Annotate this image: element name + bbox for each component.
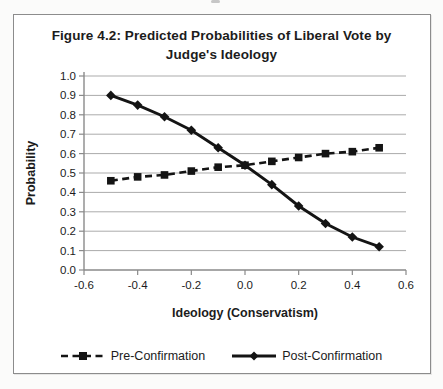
y-tick-label-0.4: 0.4 [60, 186, 77, 198]
pre-confirmation-marker-0.1 [268, 158, 276, 166]
legend-item-pre-confirmation: Pre-Confirmation [60, 349, 205, 363]
chart-legend: Pre-Confirmation Post-Confirmation [13, 347, 429, 365]
y-tick-label-0.6: 0.6 [60, 148, 76, 160]
x-axis-title: Ideology (Conservatism) [84, 306, 406, 320]
pre-confirmation-line-sample [60, 349, 106, 363]
pre-confirmation-marker--0.2 [188, 167, 196, 175]
legend-label-post-confirmation: Post-Confirmation [282, 349, 382, 363]
legend-label-pre-confirmation: Pre-Confirmation [111, 349, 205, 363]
post-confirmation-marker--0.5 [106, 91, 116, 101]
post-confirmation-line-sample [231, 349, 277, 363]
x-tick-label-0.6: 0.6 [398, 279, 414, 291]
legend-sample-marker [79, 352, 87, 360]
y-tick-label-0.2: 0.2 [60, 225, 76, 237]
pre-confirmation-marker-0.5 [375, 144, 383, 152]
chart-plot-area: 0.00.10.20.30.40.50.60.70.80.91.0-0.6-0.… [0, 0, 443, 389]
post-confirmation-marker--0.4 [133, 100, 143, 110]
x-tick-label-0.0: 0.0 [237, 279, 253, 291]
y-tick-label-0.3: 0.3 [60, 206, 76, 218]
pre-confirmation-marker--0.5 [107, 177, 115, 185]
pre-confirmation-marker--0.3 [161, 171, 169, 179]
y-tick-label-0.8: 0.8 [60, 109, 76, 121]
y-tick-label-1.0: 1.0 [60, 70, 76, 82]
pre-confirmation-marker-0.3 [322, 150, 330, 158]
y-tick-label-0.7: 0.7 [60, 128, 76, 140]
x-tick-label--0.6: -0.6 [74, 279, 94, 291]
post-confirmation-line [111, 95, 379, 246]
post-confirmation-marker--0.3 [160, 112, 170, 122]
y-tick-label-0.9: 0.9 [60, 89, 76, 101]
y-tick-label-0.0: 0.0 [60, 264, 76, 276]
x-tick-label--0.4: -0.4 [128, 279, 148, 291]
legend-sample-marker [250, 352, 259, 361]
x-tick-label-0.2: 0.2 [291, 279, 307, 291]
y-tick-label-0.1: 0.1 [60, 245, 76, 257]
pre-confirmation-marker--0.1 [214, 163, 222, 171]
x-tick-label-0.4: 0.4 [344, 279, 361, 291]
legend-item-post-confirmation: Post-Confirmation [231, 349, 382, 363]
pre-confirmation-marker--0.4 [134, 173, 142, 181]
y-axis-title-text: Probability [24, 141, 38, 206]
pre-confirmation-marker-0.4 [349, 148, 357, 156]
post-confirmation-marker-0.5 [374, 242, 384, 252]
pre-confirmation-marker-0.2 [295, 154, 303, 162]
x-tick-label--0.2: -0.2 [181, 279, 201, 291]
y-tick-label-0.5: 0.5 [60, 167, 76, 179]
post-confirmation-marker-0.4 [348, 232, 358, 242]
